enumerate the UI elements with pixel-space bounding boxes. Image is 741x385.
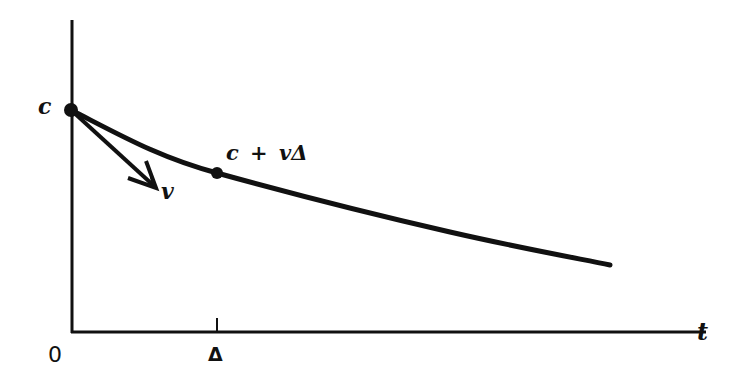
diagram-svg	[0, 0, 741, 385]
diagram-canvas: c v c + vΔ 0 Δ t	[0, 0, 741, 385]
origin-label: 0	[48, 344, 62, 366]
delta-point	[211, 167, 223, 179]
tangent-label: v	[161, 180, 174, 202]
x-tick-label: Δ	[208, 345, 223, 364]
start-point-label: c	[38, 95, 51, 117]
x-axis-label: t	[697, 320, 708, 344]
point-label: c + vΔ	[226, 142, 308, 163]
start-point	[64, 103, 78, 117]
